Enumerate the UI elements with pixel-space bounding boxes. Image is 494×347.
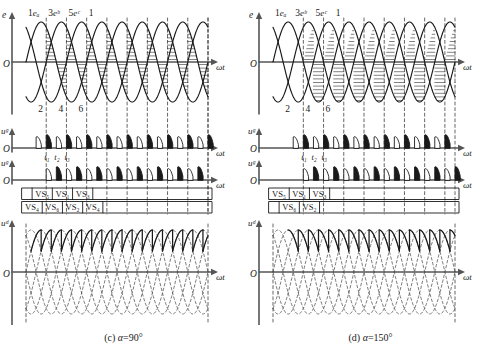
svg-text:VS₄: VS₄: [86, 202, 100, 212]
svg-text:4: 4: [305, 104, 310, 114]
svg-text:ωt: ωt: [463, 62, 472, 72]
svg-text:VS₅: VS₅: [272, 189, 286, 199]
svg-text:ωt: ωt: [216, 148, 225, 158]
svg-text:e: e: [249, 10, 253, 20]
svg-text:VS₆: VS₆: [282, 202, 296, 212]
svg-text:VS₃: VS₃: [76, 189, 90, 199]
svg-text:ωt: ωt: [216, 180, 225, 190]
panel-caption-d: (d) α=150°: [247, 332, 494, 343]
svg-text:VS₁: VS₁: [292, 189, 306, 199]
svg-text:O: O: [3, 59, 10, 69]
svg-text:VS₁: VS₁: [55, 189, 69, 199]
svg-text:6: 6: [79, 104, 84, 114]
svg-text:ωt: ωt: [463, 180, 472, 190]
svg-text:O: O: [250, 269, 257, 279]
waveform-svg-alpha-90: eOωt1351246eₐeᵇeᶜuᵍOωtt₁t₂t₃uᵍOωtVS₅VS₁V…: [0, 0, 247, 325]
svg-text:1: 1: [336, 8, 341, 18]
svg-text:eᶜ: eᶜ: [320, 8, 327, 18]
svg-text:uᵍ: uᵍ: [248, 158, 256, 168]
svg-text:VS₂: VS₂: [66, 202, 80, 212]
svg-text:eₐ: eₐ: [33, 8, 40, 18]
svg-text:O: O: [250, 59, 257, 69]
panel-caption-c: (c) α=90°: [0, 332, 247, 343]
svg-text:eᶜ: eᶜ: [73, 8, 80, 18]
svg-text:O: O: [3, 176, 10, 186]
svg-text:O: O: [250, 176, 257, 186]
svg-text:t₃: t₃: [64, 152, 69, 162]
svg-text:ωt: ωt: [216, 62, 225, 72]
svg-text:t₂: t₂: [54, 152, 59, 162]
caption-label-d: (d): [348, 332, 360, 343]
svg-text:t₁: t₁: [301, 152, 306, 162]
svg-text:O: O: [250, 144, 257, 154]
alpha-value-c: =90°: [123, 332, 143, 343]
svg-text:VS₆: VS₆: [45, 202, 59, 212]
svg-text:ωt: ωt: [463, 148, 472, 158]
svg-text:uᵈ: uᵈ: [248, 218, 257, 228]
svg-text:uᵍ: uᵍ: [248, 126, 256, 136]
svg-text:ωt: ωt: [216, 272, 225, 282]
svg-text:eᵇ: eᵇ: [53, 8, 60, 18]
svg-text:6: 6: [326, 104, 331, 114]
svg-text:VS₂: VS₂: [302, 202, 316, 212]
svg-text:2: 2: [38, 104, 43, 114]
alpha-value-d: =150°: [368, 332, 393, 343]
panel-alpha-150: eOωt1351246eₐeᵇeᶜuᵍOωtt₁t₂t₃uᵍOωtVS₅VS₁V…: [247, 0, 494, 347]
svg-text:uᵈ: uᵈ: [1, 218, 10, 228]
svg-text:O: O: [3, 269, 10, 279]
svg-text:4: 4: [58, 104, 63, 114]
svg-text:t₃: t₃: [322, 152, 327, 162]
svg-text:eₐ: eₐ: [280, 8, 287, 18]
svg-text:t₁: t₁: [44, 152, 49, 162]
svg-text:O: O: [3, 144, 10, 154]
svg-text:eᵇ: eᵇ: [300, 8, 307, 18]
svg-text:t₂: t₂: [311, 152, 316, 162]
svg-text:1: 1: [89, 8, 94, 18]
svg-text:e: e: [2, 10, 6, 20]
svg-text:VS₅: VS₅: [35, 189, 49, 199]
svg-text:uᵍ: uᵍ: [1, 158, 9, 168]
panel-alpha-90: eOωt1351246eₐeᵇeᶜuᵍOωtt₁t₂t₃uᵍOωtVS₅VS₁V…: [0, 0, 247, 347]
svg-text:ωt: ωt: [463, 272, 472, 282]
svg-text:2: 2: [285, 104, 290, 114]
svg-text:VS₃: VS₃: [313, 189, 327, 199]
svg-text:VS₄: VS₄: [25, 202, 39, 212]
waveform-svg-alpha-150: eOωt1351246eₐeᵇeᶜuᵍOωtt₁t₂t₃uᵍOωtVS₅VS₁V…: [247, 0, 494, 325]
svg-text:uᵍ: uᵍ: [1, 126, 9, 136]
caption-label-c: (c): [104, 332, 115, 343]
